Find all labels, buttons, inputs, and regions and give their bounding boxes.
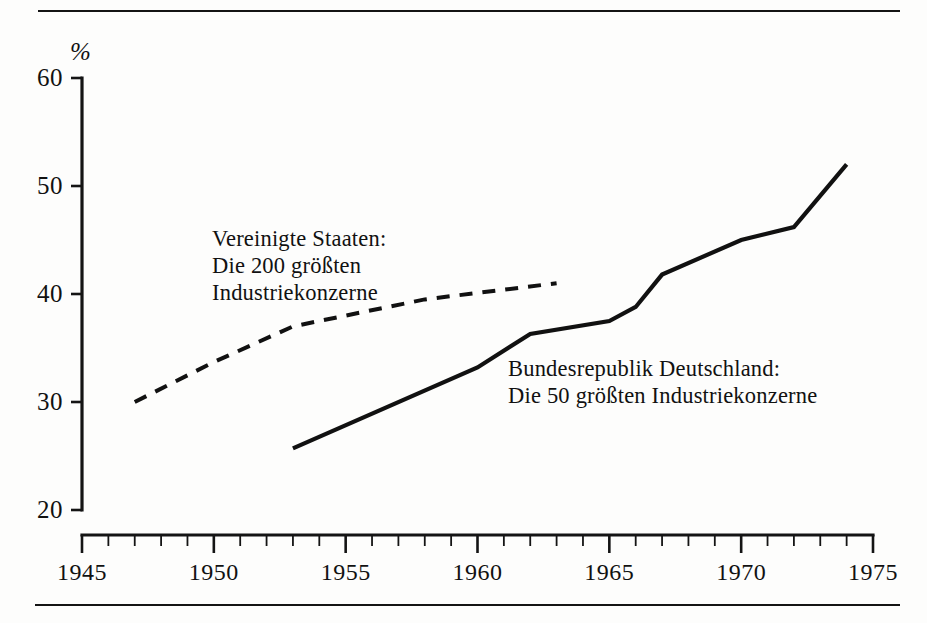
x-axis-tick-label-1955: 1955 [296,560,396,584]
y-axis-tick-label-60: 60 [7,65,63,90]
annotation-us-line-2: Die 200 größten [212,252,386,279]
annotation-frg-line-1: Bundesrepublik Deutschland: [508,355,817,382]
y-axis-tick-label-20: 20 [7,497,63,522]
figure-container: % 2030405060 194519501955196019651970197… [0,0,927,623]
annotation-us-line-1: Vereinigte Staaten: [212,225,386,252]
y-axis-tick-label-40: 40 [7,281,63,306]
line-chart-plot [0,0,927,623]
x-axis-tick-label-1960: 1960 [428,560,528,584]
annotation-frg-line-2: Die 50 größten Industriekonzerne [508,382,817,409]
series-annotation-bundesrepublik: Bundesrepublik Deutschland:Die 50 größte… [508,355,817,409]
x-axis-tick-label-1975: 1975 [823,560,923,584]
annotation-us-line-3: Industriekonzerne [212,279,386,306]
x-axis-tick-label-1965: 1965 [559,560,659,584]
x-axis-tick-label-1950: 1950 [164,560,264,584]
y-axis-tick-label-50: 50 [7,173,63,198]
axes-group [71,78,873,553]
y-axis-tick-label-30: 30 [7,389,63,414]
x-axis-tick-label-1970: 1970 [691,560,791,584]
x-axis-tick-label-1945: 1945 [32,560,132,584]
series-annotation-united-states: Vereinigte Staaten:Die 200 größtenIndust… [212,225,386,306]
